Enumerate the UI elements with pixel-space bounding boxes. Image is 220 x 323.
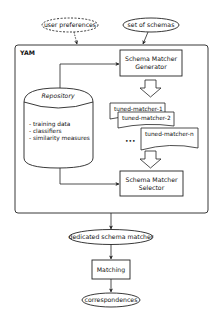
svg-text:tuned-matcher-1: tuned-matcher-1: [114, 106, 163, 112]
tuned-matcher-2: tuned-matcher-2: [118, 112, 174, 128]
correspondences-node: correspondences: [82, 293, 140, 307]
svg-text:dedicated schema matcher: dedicated schema matcher: [69, 233, 154, 240]
svg-text:Matching: Matching: [97, 266, 126, 274]
svg-text:Schema Matcher: Schema Matcher: [125, 55, 178, 62]
block-arrow-down-icon: [140, 80, 161, 97]
yam-label: YAM: [19, 49, 35, 56]
yam-architecture-diagram: user preferences set of schemas YAM Sche…: [0, 0, 220, 323]
repository-to-generator-arrow: [60, 64, 119, 88]
repository-store: Repository - training data - classifiers…: [24, 88, 93, 168]
schema-matcher-generator: Schema Matcher Generator: [120, 50, 182, 76]
matching-process: Matching: [92, 260, 130, 279]
set-of-schemas-label: set of schemas: [128, 21, 175, 28]
dedicated-schema-matcher-node: dedicated schema matcher: [69, 230, 154, 245]
set-of-schemas-node: set of schemas: [123, 18, 179, 32]
user-preferences-label: user preferences: [44, 21, 96, 29]
repository-to-selector-arrow: [60, 168, 119, 184]
svg-text:correspondences: correspondences: [85, 296, 138, 304]
ellipsis-icon: •••: [125, 137, 136, 144]
svg-text:Selector: Selector: [139, 184, 165, 191]
schemas-arrow: [143, 32, 148, 44]
svg-text:Schema Matcher: Schema Matcher: [125, 176, 178, 183]
repository-title: Repository: [41, 92, 75, 100]
repository-item: - classifiers: [29, 128, 62, 134]
tuned-matcher-n: tuned-matcher-n: [141, 128, 198, 150]
repository-item: - similarity measures: [29, 135, 90, 142]
preferences-arrow: [74, 32, 77, 44]
block-arrow-down-icon: [140, 151, 161, 168]
svg-text:tuned-matcher-2: tuned-matcher-2: [122, 115, 171, 121]
svg-text:tuned-matcher-n: tuned-matcher-n: [145, 131, 194, 137]
schema-matcher-selector: Schema Matcher Selector: [120, 171, 183, 196]
svg-text:Generator: Generator: [135, 63, 167, 70]
repository-item: - training data: [29, 121, 71, 128]
user-preferences-node: user preferences: [42, 18, 98, 32]
